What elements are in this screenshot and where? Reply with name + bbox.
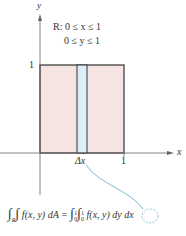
y-axis-label: y [37, 0, 41, 10]
dx-term: dx [124, 209, 133, 220]
region-definition-line1: R: 0 ≤ x ≤ 1 [53, 21, 101, 32]
rhs-integrand: f(x, y) dy [87, 209, 122, 220]
delta-x-label: Δx [75, 155, 85, 166]
region-definition-line2: 0 ≤ y ≤ 1 [64, 35, 100, 46]
dx-highlight-circle [142, 209, 158, 223]
x-tick-label: 1 [121, 155, 126, 166]
lhs-integrand: f(x, y) dA = [22, 209, 68, 220]
integral-sign: ∫ [16, 206, 20, 221]
x-axis-label: x [177, 146, 181, 157]
callout-curve [86, 165, 143, 209]
vertical-strip [77, 65, 87, 153]
x-axis-arrow-icon [167, 151, 174, 155]
formula: ∫R∫ f(x, y) dA = ∫10∫10 f(x, y) dy dx [8, 206, 134, 223]
y-axis-arrow-icon [38, 14, 42, 21]
y-tick-label: 1 [29, 59, 34, 70]
inner-lower-limit: 0 [81, 216, 84, 222]
